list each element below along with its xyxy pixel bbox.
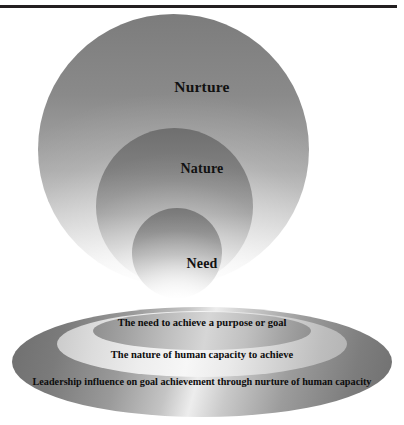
ellipse-label-need: The need to achieve a purpose or goal <box>0 317 404 328</box>
circle-need <box>132 208 222 298</box>
ellipse-label-nature: The nature of human capacity to achieve <box>0 349 404 360</box>
circle-label-nurture: Nurture <box>0 78 404 96</box>
concentric-circle-group: Nurture Nature Need <box>0 0 404 300</box>
diagram-canvas: Nurture Nature Need The need to achieve … <box>0 0 404 425</box>
circle-label-nature: Nature <box>0 161 404 177</box>
nested-ellipse-group: The need to achieve a purpose or goal Th… <box>0 300 404 425</box>
circle-label-need: Need <box>0 256 404 272</box>
ellipse-label-leadership: Leadership influence on goal achievement… <box>0 376 404 387</box>
